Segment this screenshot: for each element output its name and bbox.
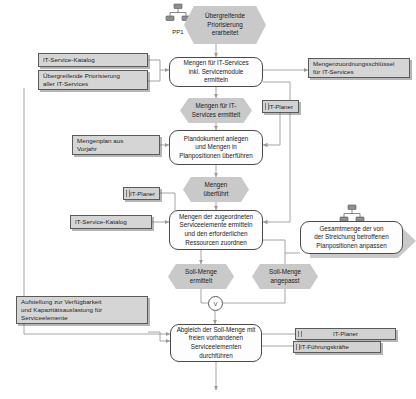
event-uebergreifende-priorisierung-erarbeitet[interactable]: Übergreifende Priorisierung erarbeitet [184, 6, 266, 44]
event-mengen-ueberfuehrt[interactable]: Mengen überführt [183, 177, 249, 202]
document-line: Serviceelemente [21, 314, 143, 322]
document-uebergreifende-priorisierung-aller-it-services[interactable]: Übergreifende Priorisierung aller IT-Ser… [38, 70, 148, 90]
function-line: Planpositionen anpassen [314, 242, 388, 251]
document-it-service-katalog-1[interactable]: IT-Service-Katalog [38, 53, 148, 67]
function-line: freien vorhandenen [176, 334, 256, 343]
document-line: aller IT-Services [43, 80, 143, 88]
role-label: IT-Planer [130, 190, 155, 198]
function-mengen-serviceelemente-ermitteln[interactable]: Mengen der zugeordneten Serviceelemente … [169, 210, 263, 250]
event-mengen-fuer-it-services-ermittelt[interactable]: Mengen für IT- Services ermittelt [180, 98, 252, 123]
document-line: Übergreifende Priorisierung [43, 72, 143, 80]
function-line: und den erforderlichen [179, 230, 253, 239]
role-label: IT-Planer [268, 103, 293, 111]
event-line: erarbeitet [205, 29, 245, 37]
role-it-planer-2[interactable]: IT-Planer [123, 187, 160, 200]
function-line: Mengen der zugeordneten [179, 213, 253, 222]
function-line: Ressourcen zuordnen [179, 239, 253, 248]
function-abgleich-soll-menge[interactable]: Abgleich der Soll-Menge mit freien vorha… [170, 324, 262, 362]
event-line: angepasst [269, 277, 301, 285]
event-line: überführt [203, 190, 228, 198]
role-it-planer-1[interactable]: IT-Planer [262, 100, 299, 113]
function-line: ermitteln [183, 76, 248, 85]
function-gesamtmenge-anpassen[interactable]: Gesamtmenge der von der Streichung betro… [300, 221, 403, 254]
or-connector[interactable]: V [208, 296, 223, 311]
event-line: Mengen [203, 181, 228, 189]
event-line: Soll-Menge [269, 268, 301, 276]
event-line: Priorisierung [205, 21, 245, 29]
function-plandokument-anlegen[interactable]: Plandokument anlegen und Mengen in Planp… [169, 130, 263, 165]
document-line: Mengenzuordnungsschlüssel [313, 60, 405, 68]
event-line: Services ermittelt [192, 111, 240, 119]
function-line: der Streichung betroffenen [314, 233, 388, 242]
function-line: Plandokument anlegen [179, 135, 253, 144]
document-line: Mengenplan aus [77, 137, 155, 145]
document-line: Vorjahr [77, 145, 155, 153]
document-line: IT-Service-Katalog [43, 56, 143, 64]
event-line: Soll-Menge [185, 268, 217, 276]
function-mengen-fuer-it-services-ermitteln[interactable]: Mengen für IT-Services inkl. Servicemodu… [169, 57, 263, 87]
event-line: ermittelt [185, 277, 217, 285]
document-it-service-katalog-2[interactable]: IT-Service-Katalog [70, 215, 152, 229]
role-label: IT-Führungskräfte [300, 343, 349, 351]
function-line: Serviceelemente ermitteln [179, 221, 253, 230]
role-label: IT-Planer [333, 330, 358, 338]
function-line: Abgleich der Soll-Menge mit [176, 326, 256, 335]
function-line: Gesamtmenge der von [314, 225, 388, 234]
event-line: Übergreifende [205, 12, 245, 20]
function-line: und Mengen in [179, 143, 253, 152]
role-it-fuehrungskraefte[interactable]: IT-Führungskräfte [293, 341, 381, 353]
function-line: inkl. Servicemodule [183, 68, 248, 77]
or-connector-symbol: V [213, 301, 217, 307]
document-mengenzuordnungsschluessel[interactable]: Mengenzuordnungsschlüssel für IT-Service… [308, 58, 410, 78]
event-soll-menge-ermittelt[interactable]: Soll-Menge ermittelt [168, 264, 234, 289]
document-line: IT-Service-Katalog [75, 218, 147, 226]
event-line: Mengen für IT- [192, 102, 240, 110]
document-line: für IT-Services [313, 68, 405, 76]
function-line: Serviceelementen durchführen [176, 343, 256, 360]
document-line: Aufstellung zur Verfügbarkeit [21, 298, 143, 306]
document-aufstellung-verfuegbarkeit[interactable]: Aufstellung zur Verfügbarkeit und Kapazi… [16, 296, 148, 324]
event-soll-menge-angepasst[interactable]: Soll-Menge angepasst [252, 264, 318, 289]
document-line: und Kapazitätsauslastung für [21, 306, 143, 314]
document-mengenplan-aus-vorjahr[interactable]: Mengenplan aus Vorjahr [72, 135, 160, 155]
role-it-planer-3[interactable]: IT-Planer [295, 328, 396, 340]
process-diagram-canvas: PP1 Übergreifende Priorisierung erarbeit… [0, 0, 416, 399]
function-line: Planpositionen überführen [179, 152, 253, 161]
function-line: Mengen für IT-Services [183, 59, 248, 68]
